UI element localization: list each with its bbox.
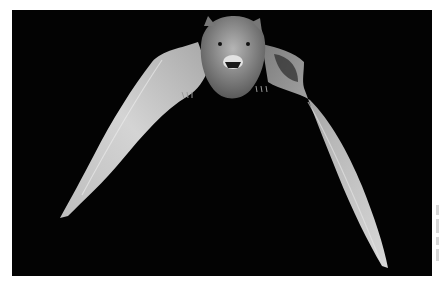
right-eye (246, 42, 250, 46)
left-eye (218, 42, 222, 46)
left-ear (204, 16, 216, 26)
bat-photo (12, 10, 432, 276)
left-wing (60, 42, 208, 218)
photo-credit-vertical (434, 205, 440, 275)
bat-illustration (12, 10, 432, 276)
